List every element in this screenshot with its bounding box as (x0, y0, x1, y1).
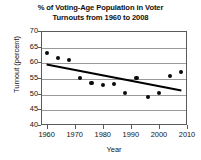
trend-line-segment (47, 65, 182, 91)
x-tick-label-2010: 2010 (174, 130, 200, 139)
x-tick-label-2000: 2000 (146, 130, 172, 139)
chart-title-line-2: Turnouts from 1960 to 2008 (52, 13, 148, 22)
y-tick-label-65: 65 (22, 43, 38, 51)
data-point (146, 95, 150, 99)
trend-line (41, 31, 187, 125)
y-tick-mark-60 (38, 62, 41, 63)
data-point (101, 83, 105, 87)
y-tick-mark-70 (38, 31, 41, 32)
x-tick-mark-1990 (131, 125, 132, 129)
data-point (45, 51, 49, 55)
data-point (56, 56, 60, 60)
x-tick-label-1960: 1960 (34, 130, 60, 139)
y-tick-label-55: 55 (22, 74, 38, 82)
data-point (112, 82, 116, 86)
y-tick-mark-55 (38, 78, 41, 79)
voter-turnout-scatter-chart: % of Voting-Age Population in Voter Turn… (0, 0, 201, 160)
y-axis-label: Turnout (percent) (12, 17, 21, 113)
x-tick-label-1970: 1970 (62, 130, 88, 139)
y-tick-mark-50 (38, 94, 41, 95)
x-tick-label-1990: 1990 (118, 130, 144, 139)
y-tick-label-40: 40 (22, 121, 38, 129)
x-tick-mark-2000 (159, 125, 160, 129)
y-tick-mark-65 (38, 47, 41, 48)
y-tick-label-70: 70 (22, 27, 38, 35)
chart-title: % of Voting-Age Population in Voter Turn… (8, 3, 193, 22)
y-tick-mark-45 (38, 109, 41, 110)
x-tick-label-1980: 1980 (90, 130, 116, 139)
y-tick-mark-40 (38, 125, 41, 126)
x-axis-label: Year (41, 145, 187, 154)
y-tick-label-60: 60 (22, 58, 38, 66)
data-point (89, 81, 93, 85)
x-tick-mark-1960 (47, 125, 48, 129)
y-tick-label-45: 45 (22, 105, 38, 113)
y-tick-label-50: 50 (22, 90, 38, 98)
x-tick-mark-1980 (103, 125, 104, 129)
chart-title-line-1: % of Voting-Age Population in Voter (38, 3, 164, 12)
data-point (134, 76, 138, 80)
x-tick-mark-2010 (187, 125, 188, 129)
x-tick-mark-1970 (75, 125, 76, 129)
